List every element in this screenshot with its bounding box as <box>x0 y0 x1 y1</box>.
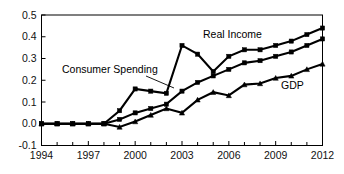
y-tick-label: 0.3 <box>22 52 37 64</box>
marker-consumer-spending <box>149 89 153 93</box>
x-tick-label: 2006 <box>217 149 241 161</box>
marker-real-income <box>242 61 246 65</box>
marker-consumer-spending <box>180 43 184 47</box>
marker-consumer-spending <box>211 69 215 73</box>
x-tick-label: 1994 <box>30 149 54 161</box>
x-tick-label: 1997 <box>77 149 101 161</box>
marker-real-income <box>227 67 231 71</box>
consumer-spending-label: Consumer Spending <box>62 63 158 75</box>
line-chart: 0.50.40.30.20.10.0-0.1 19941997200020032… <box>0 0 344 174</box>
x-tick-label: 2000 <box>123 149 147 161</box>
marker-consumer-spending <box>274 43 278 47</box>
marker-consumer-spending <box>305 32 309 36</box>
marker-consumer-spending <box>227 54 231 58</box>
marker-consumer-spending <box>117 109 121 113</box>
y-tick-label: 0.4 <box>22 30 37 42</box>
chart-container: 0.50.40.30.20.10.0-0.1 19941997200020032… <box>0 0 344 174</box>
marker-real-income <box>320 37 324 41</box>
y-tick-label: 0.0 <box>22 117 37 129</box>
marker-real-income <box>289 50 293 54</box>
marker-consumer-spending <box>242 48 246 52</box>
marker-consumer-spending <box>196 52 200 56</box>
marker-consumer-spending <box>258 48 262 52</box>
marker-real-income <box>149 106 153 110</box>
marker-real-income <box>117 117 121 121</box>
marker-real-income <box>258 59 262 63</box>
x-tick-label: 2012 <box>311 149 335 161</box>
y-tick-label: 0.1 <box>22 96 37 108</box>
marker-real-income <box>196 80 200 84</box>
y-tick-label: 0.2 <box>22 74 37 86</box>
marker-real-income <box>274 54 278 58</box>
marker-consumer-spending <box>164 91 168 95</box>
marker-consumer-spending <box>289 39 293 43</box>
marker-consumer-spending <box>133 87 137 91</box>
gdp-label: GDP <box>281 79 304 91</box>
y-tick-label: 0.5 <box>22 9 37 21</box>
marker-consumer-spending <box>320 26 324 30</box>
marker-real-income <box>180 89 184 93</box>
x-tick-label: 2009 <box>264 149 288 161</box>
x-tick-label: 2003 <box>170 149 194 161</box>
real-income-label: Real Income <box>203 28 262 40</box>
marker-real-income <box>211 74 215 78</box>
marker-real-income <box>133 111 137 115</box>
marker-real-income <box>305 43 309 47</box>
